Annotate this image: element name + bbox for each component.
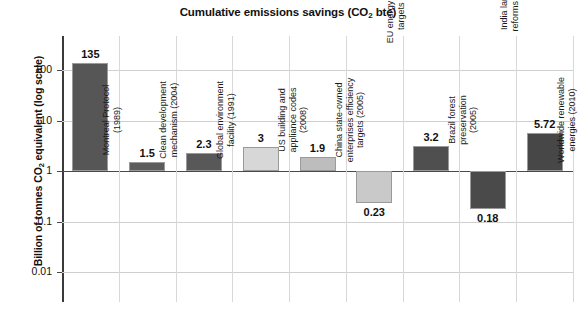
y-tick-mark xyxy=(57,121,62,122)
gridline-10 xyxy=(62,121,573,122)
category-label: India land use reforms (2007) xyxy=(499,0,521,57)
y-tick-label-10: 10 xyxy=(12,114,52,126)
category-label: EU energy efficiency targets (2008) xyxy=(385,0,407,57)
chart-title-subscript: 2 xyxy=(368,11,372,20)
category-label: US building and appliance codes (2008) xyxy=(277,65,310,175)
y-tick-mark xyxy=(57,70,62,71)
gridline-vertical xyxy=(403,36,404,302)
y-tick-mark xyxy=(57,171,62,172)
category-label: Montreal Protocol (1989) xyxy=(101,65,123,175)
category-label: Brazil forest preservation (2005) xyxy=(447,65,480,175)
bar-value-label: 0.18 xyxy=(458,212,518,224)
gridline-vertical xyxy=(516,36,517,302)
gridline-0.01 xyxy=(62,272,573,273)
y-tick-mark xyxy=(57,272,62,273)
y-tick-mark xyxy=(57,222,62,223)
y-axis-line xyxy=(62,36,64,302)
bar-value-label: 135 xyxy=(60,48,120,60)
y-tick-label-0.1: 0.1 xyxy=(12,215,52,227)
bar[interactable] xyxy=(243,147,279,171)
y-tick-label-100: 100 xyxy=(12,63,52,75)
bar[interactable] xyxy=(356,171,392,203)
gridline-100 xyxy=(62,70,573,71)
chart-title: Cumulative emissions savings (CO2 bte) xyxy=(0,6,576,18)
bar-value-label: 0.23 xyxy=(344,206,404,218)
category-label: China state-owned enterprises efficiency… xyxy=(334,65,367,175)
bar[interactable] xyxy=(413,146,449,172)
chart-title-main: Cumulative emissions savings (CO xyxy=(180,6,369,18)
category-label: Global environment facility (1991) xyxy=(215,65,237,175)
plot-area: 1001010.10.01 1351.52.331.90.233.20.185.… xyxy=(62,36,573,302)
y-tick-label-0.01: 0.01 xyxy=(12,265,52,277)
category-label: Worldwide renewable energies (2010) xyxy=(556,65,578,175)
bar[interactable] xyxy=(470,171,506,209)
y-tick-label-1: 1 xyxy=(12,164,52,176)
category-label: Clean development mechanism (2004) xyxy=(158,65,180,175)
